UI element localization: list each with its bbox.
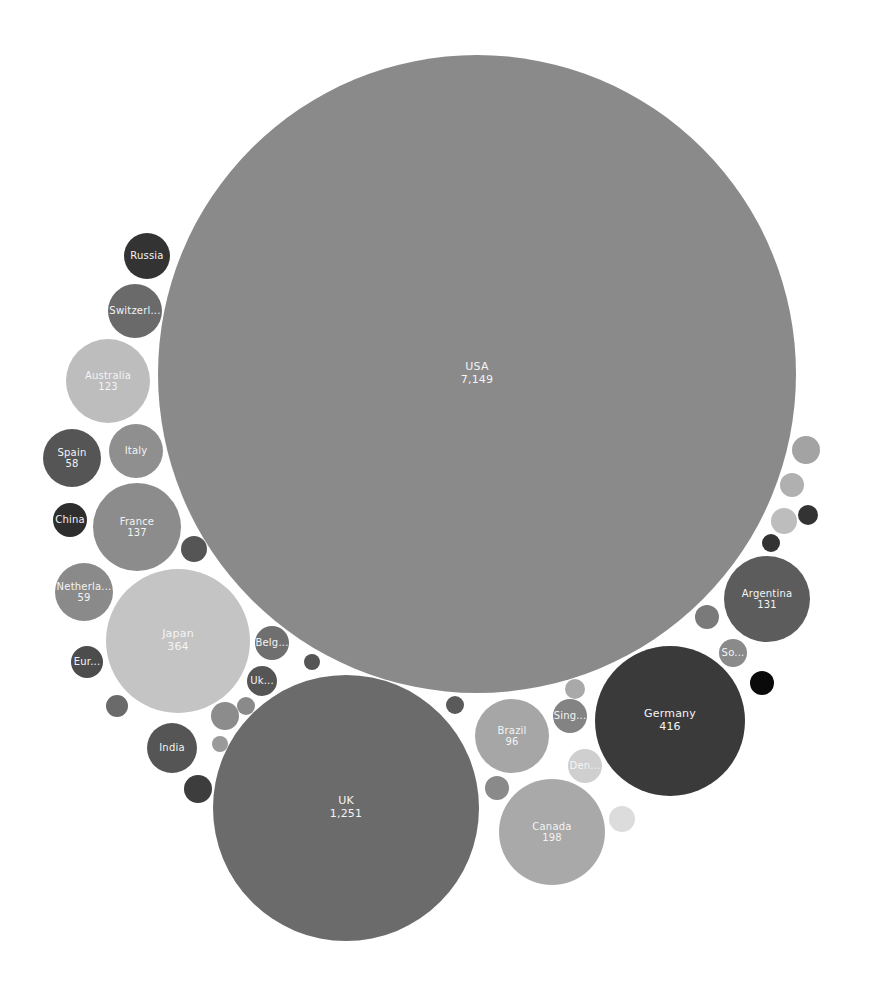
bubble-south[interactable]: So... (719, 639, 747, 667)
bubble-b2[interactable] (106, 695, 128, 717)
bubble-value: 1,251 (330, 808, 363, 821)
bubble-label: Sing... (554, 710, 587, 722)
bubble-b12[interactable] (695, 605, 719, 629)
bubble-denmark[interactable]: Den... (568, 749, 602, 783)
bubble-b15[interactable] (780, 473, 804, 497)
bubble-singapore[interactable]: Sing... (553, 699, 587, 733)
bubble-b4[interactable] (211, 702, 239, 730)
bubble-b16[interactable] (771, 508, 797, 534)
bubble-australia[interactable]: Australia123 (66, 339, 150, 423)
bubble-belgium[interactable]: Belg... (255, 626, 289, 660)
bubble-label: Canada (532, 821, 571, 833)
bubble-value: 7,149 (461, 374, 494, 387)
bubble-india[interactable]: India (147, 723, 197, 773)
bubble-label: India (159, 742, 185, 754)
bubble-label: Russia (130, 250, 163, 262)
bubble-ukraine[interactable]: Uk... (247, 666, 277, 696)
bubble-label: China (55, 514, 85, 526)
bubble-b10[interactable] (565, 679, 585, 699)
bubble-label: Germany (644, 708, 696, 721)
bubble-italy[interactable]: Italy (109, 424, 163, 478)
bubble-value: 96 (505, 736, 518, 748)
bubble-value: 131 (757, 599, 777, 611)
bubble-netherlands[interactable]: Netherla...59 (55, 563, 113, 621)
bubble-label: Eur... (74, 656, 101, 668)
bubble-label: USA (465, 361, 488, 374)
bubble-europe[interactable]: Eur... (71, 646, 103, 678)
bubble-chart: USA7,149UK1,251Germany416Japan364Canada1… (0, 0, 872, 998)
bubble-label: Netherla... (57, 581, 112, 593)
bubble-value: 198 (542, 832, 562, 844)
bubble-usa[interactable]: USA7,149 (158, 55, 796, 693)
bubble-spain[interactable]: Spain58 (43, 429, 101, 487)
bubble-b1[interactable] (181, 536, 207, 562)
bubble-argentina[interactable]: Argentina131 (724, 556, 810, 642)
bubble-label: Spain (58, 447, 87, 459)
bubble-b9[interactable] (485, 776, 509, 800)
bubble-label: France (120, 516, 154, 528)
bubble-germany[interactable]: Germany416 (595, 646, 745, 796)
bubble-china[interactable]: China (53, 503, 87, 537)
bubble-brazil[interactable]: Brazil96 (475, 699, 549, 773)
bubble-value: 137 (127, 527, 147, 539)
bubble-b8[interactable] (446, 696, 464, 714)
bubble-label: Uk... (250, 675, 274, 687)
bubble-switzerland[interactable]: Switzerl... (108, 284, 162, 338)
bubble-label: So... (722, 647, 745, 659)
bubble-value: 59 (77, 592, 90, 604)
bubble-russia[interactable]: Russia (124, 233, 170, 279)
bubble-b3[interactable] (184, 775, 212, 803)
bubble-b18[interactable] (762, 534, 780, 552)
bubble-label: Den... (570, 760, 601, 772)
bubble-japan[interactable]: Japan364 (106, 569, 250, 713)
bubble-label: Switzerl... (109, 305, 160, 317)
bubble-value: 123 (98, 381, 118, 393)
bubble-b13[interactable] (750, 671, 774, 695)
bubble-b11[interactable] (609, 806, 635, 832)
bubble-canada[interactable]: Canada198 (499, 779, 605, 885)
bubble-label: Japan (162, 628, 194, 641)
bubble-label: Australia (85, 370, 131, 382)
bubble-value: 58 (65, 458, 78, 470)
bubble-label: Italy (125, 445, 148, 457)
bubble-b14[interactable] (792, 436, 820, 464)
bubble-b5[interactable] (237, 697, 255, 715)
bubble-label: Brazil (497, 725, 526, 737)
bubble-label: UK (338, 795, 354, 808)
bubble-label: Argentina (742, 588, 793, 600)
bubble-value: 416 (659, 721, 681, 734)
bubble-b6[interactable] (212, 736, 228, 752)
bubble-b7[interactable] (304, 654, 320, 670)
bubble-france[interactable]: France137 (93, 483, 181, 571)
bubble-value: 364 (167, 641, 189, 654)
bubble-uk[interactable]: UK1,251 (213, 675, 479, 941)
bubble-label: Belg... (255, 637, 288, 649)
bubble-b17[interactable] (798, 505, 818, 525)
